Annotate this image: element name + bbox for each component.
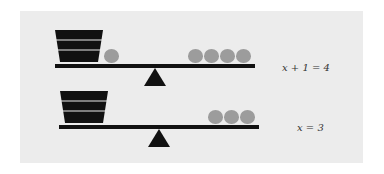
apple-icon [188, 49, 203, 63]
balance-scale-2: x = 3 [20, 87, 363, 163]
apple-icon [104, 49, 119, 63]
apple-icon [240, 110, 255, 124]
equation-label: x + 1 = 4 [282, 62, 330, 73]
fulcrum-icon [148, 129, 170, 147]
apple-icon [208, 110, 223, 124]
apple-icon [236, 49, 251, 63]
fulcrum-icon [144, 68, 166, 86]
apple-icon [204, 49, 219, 63]
balance-diagram-panel: x + 1 = 4 x = 3 [20, 11, 363, 163]
balance-scale-1: x + 1 = 4 [20, 11, 363, 87]
bucket-icon [60, 91, 108, 123]
apple-icon [224, 110, 239, 124]
bucket-icon [55, 30, 103, 62]
apple-icon [220, 49, 235, 63]
equation-label: x = 3 [297, 122, 324, 133]
